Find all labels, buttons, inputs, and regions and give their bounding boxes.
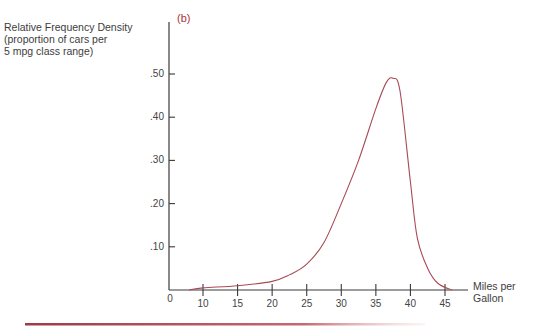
x-tick-label: 15 — [226, 298, 250, 309]
x-tick-label: 35 — [364, 298, 388, 309]
y-tick-label: .10 — [140, 241, 164, 252]
panel-label: (b) — [177, 12, 190, 24]
y-tick-label: .50 — [140, 68, 164, 79]
x-tick-label: 25 — [295, 298, 319, 309]
y-label-line: Relative Frequency Density — [4, 21, 174, 33]
origin-label: 0 — [158, 293, 182, 304]
y-ticks — [169, 74, 175, 247]
y-label-line: 5 mpg class range) — [4, 45, 174, 57]
x-tick-label: 45 — [433, 298, 457, 309]
y-tick-label: .40 — [140, 111, 164, 122]
x-tick-label: 40 — [398, 298, 422, 309]
bottom-rule — [25, 323, 425, 326]
x-tick-label: 20 — [260, 298, 284, 309]
y-tick-label: .30 — [140, 154, 164, 165]
density-curve — [189, 78, 452, 290]
y-label-line: (proportion of cars per — [4, 33, 174, 45]
x-axis-label: Miles per Gallon — [473, 280, 516, 304]
x-label-line: Gallon — [473, 292, 516, 304]
y-axis-label: Relative Frequency Density (proportion o… — [4, 21, 174, 57]
x-tick-label: 30 — [329, 298, 353, 309]
x-tick-label: 10 — [191, 298, 215, 309]
x-label-line: Miles per — [473, 280, 516, 292]
y-tick-label: .20 — [140, 198, 164, 209]
